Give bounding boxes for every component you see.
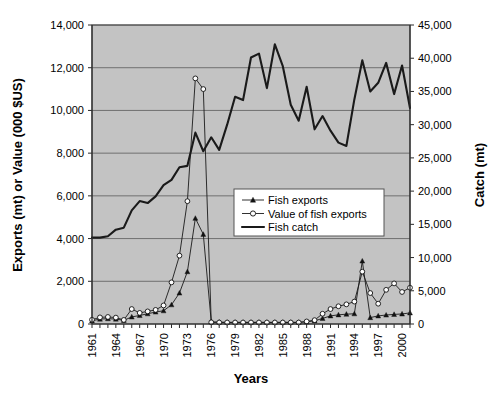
x-axis-tick-label: 1961 — [86, 333, 98, 357]
right-axis-tick-label: 15,000 — [418, 218, 452, 230]
right-axis-tick-label: 30,000 — [418, 119, 452, 131]
right-axis-tick-label: 5,000 — [418, 285, 446, 297]
x-axis-tick-label: 1976 — [205, 333, 217, 357]
data-point-marker — [185, 199, 190, 204]
data-point-marker — [113, 315, 118, 320]
x-axis-tick-label: 1982 — [253, 333, 265, 357]
data-point-marker — [98, 315, 103, 320]
x-axis-tick-label: 1970 — [158, 333, 170, 357]
data-point-marker — [328, 307, 333, 312]
chart-legend: Fish exportsValue of fish exportsFish ca… — [234, 189, 384, 236]
data-point-marker — [400, 290, 405, 295]
right-axis-tick-label: 20,000 — [418, 185, 452, 197]
data-point-marker — [169, 280, 174, 285]
left-axis-tick-label: 8,000 — [56, 147, 84, 159]
left-axis-tick-label: 4,000 — [56, 233, 84, 245]
data-point-marker — [145, 309, 150, 314]
data-point-marker — [352, 299, 357, 304]
data-point-marker — [368, 291, 373, 296]
data-point-marker — [121, 318, 126, 323]
legend-item-label: Fish catch — [268, 221, 318, 233]
x-axis-title: Years — [234, 371, 269, 386]
data-point-marker — [137, 310, 142, 315]
fish-exports-catch-chart: 02,0004,0006,0008,00010,00012,00014,000 … — [0, 0, 502, 393]
x-axis-tick-label: 2000 — [396, 333, 408, 357]
left-axis-tick-label: 10,000 — [50, 104, 84, 116]
chart-figure: 02,0004,0006,0008,00010,00012,00014,000 … — [0, 0, 502, 393]
data-point-marker — [392, 281, 397, 286]
right-axis-tick-label: 0 — [418, 318, 424, 330]
data-point-marker — [344, 302, 349, 307]
data-point-marker — [129, 307, 134, 312]
x-axis-tick-label: 1988 — [301, 333, 313, 357]
right-axis-tick-label: 10,000 — [418, 252, 452, 264]
data-point-marker — [201, 87, 206, 92]
right-axis-tick-label: 25,000 — [418, 152, 452, 164]
left-axis-tick-label: 0 — [78, 318, 84, 330]
data-point-marker — [360, 269, 365, 274]
left-axis-tick-label: 14,000 — [50, 19, 84, 31]
data-point-marker — [304, 319, 309, 324]
right-axis-tick-label: 35,000 — [418, 85, 452, 97]
legend-item-label: Fish exports — [268, 194, 328, 206]
data-point-marker — [153, 308, 158, 313]
left-axis-tick-label: 2,000 — [56, 275, 84, 287]
data-point-marker — [376, 301, 381, 306]
data-point-marker — [177, 253, 182, 258]
data-point-marker — [106, 315, 111, 320]
data-point-marker — [320, 311, 325, 316]
right-axis-tick-label: 45,000 — [418, 19, 452, 31]
legend-swatch-marker — [250, 211, 255, 216]
y2-axis-title: Catch (mt) — [472, 143, 487, 207]
left-axis-tick-label: 12,000 — [50, 62, 84, 74]
data-point-marker — [193, 76, 198, 81]
x-axis-tick-label: 1997 — [372, 333, 384, 357]
x-axis-tick-label: 1985 — [277, 333, 289, 357]
data-point-marker — [336, 304, 341, 309]
data-point-marker — [312, 318, 317, 323]
legend-item-label: Value of fish exports — [268, 208, 367, 220]
x-axis-tick-label: 1973 — [181, 333, 193, 357]
left-axis-tick-label: 6,000 — [56, 190, 84, 202]
x-axis-tick-label: 1967 — [134, 333, 146, 357]
x-axis-tick-label: 1991 — [325, 333, 337, 357]
y-axis-title: Exports (mt) or Value (000 $US) — [10, 78, 25, 272]
right-axis-tick-label: 40,000 — [418, 52, 452, 64]
data-point-marker — [384, 287, 389, 292]
plot-area-background — [92, 25, 410, 324]
x-axis-tick-label: 1994 — [348, 333, 360, 357]
data-point-marker — [161, 303, 166, 308]
x-axis-tick-label: 1979 — [229, 333, 241, 357]
x-axis-tick-label: 1964 — [110, 333, 122, 357]
